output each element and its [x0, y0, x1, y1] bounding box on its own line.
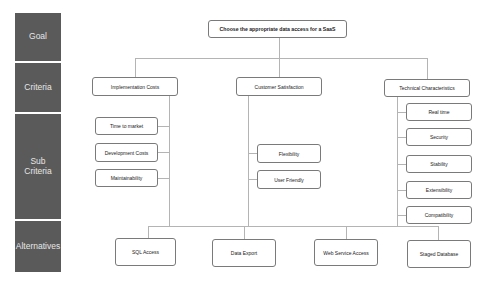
sub-development-costs[interactable]: Development Costs	[95, 143, 158, 162]
sub-label: Time to market	[110, 123, 143, 129]
level-label: Goal	[29, 32, 47, 42]
alternative-label: SQL Access	[132, 249, 159, 255]
connector	[279, 38, 280, 58]
goal-node[interactable]: Choose the appropriate data access for a…	[208, 20, 347, 38]
connector	[346, 226, 347, 239]
alternative-sql-access[interactable]: SQL Access	[115, 238, 176, 266]
connector	[397, 97, 398, 226]
sub-extensibility[interactable]: Extensibility	[406, 181, 472, 199]
level-label: Alternatives	[16, 242, 60, 252]
level-alternatives: Alternatives	[15, 221, 61, 272]
connector	[279, 58, 280, 77]
level-criteria: Criteria	[15, 63, 61, 112]
connector	[248, 179, 257, 180]
connector	[397, 164, 406, 165]
connector	[438, 226, 439, 240]
sub-label: Extensibility	[426, 187, 452, 193]
connector	[169, 96, 170, 226]
connector	[248, 96, 249, 226]
connector	[397, 137, 406, 138]
sub-label: User Friendly	[274, 177, 304, 183]
connector	[148, 226, 149, 238]
connector	[158, 178, 169, 179]
goal-label: Choose the appropriate data access for a…	[220, 26, 336, 32]
sub-user-friendly[interactable]: User Friendly	[257, 170, 321, 189]
level-sub-criteria: Sub Criteria	[15, 114, 61, 219]
criterion-implementation-costs[interactable]: Implementation Costs	[92, 77, 178, 96]
sub-time-to-market[interactable]: Time to market	[95, 117, 158, 135]
alternative-web-service-access[interactable]: Web Service Access	[314, 239, 378, 266]
sub-label: Real time	[428, 109, 449, 115]
connector	[135, 58, 136, 77]
alternative-label: Web Service Access	[323, 250, 368, 256]
connector	[244, 226, 245, 239]
connector	[158, 152, 169, 153]
alternative-staged-database[interactable]: Staged Database	[407, 240, 471, 268]
sub-stability[interactable]: Stability	[406, 155, 472, 173]
connector	[397, 190, 406, 191]
criterion-label: Technical Characteristics	[399, 85, 454, 91]
alternative-label: Staged Database	[420, 251, 459, 257]
connector	[158, 126, 169, 127]
criterion-customer-satisfaction[interactable]: Customer Satisfaction	[236, 77, 322, 96]
connector	[135, 58, 428, 59]
sub-flexibility[interactable]: Flexibility	[257, 144, 321, 163]
alternative-data-export[interactable]: Data Export	[212, 239, 276, 267]
sub-label: Compatibility	[425, 212, 454, 218]
sub-label: Security	[430, 134, 448, 140]
connector	[397, 112, 406, 113]
connector	[248, 153, 257, 154]
sub-label: Development Costs	[105, 150, 149, 156]
connector	[397, 215, 406, 216]
alternative-label: Data Export	[231, 250, 257, 256]
sub-maintainability[interactable]: Maintainability	[95, 169, 158, 187]
criterion-label: Implementation Costs	[111, 84, 159, 90]
level-label: Sub Criteria	[23, 157, 53, 177]
sub-security[interactable]: Security	[406, 128, 472, 146]
criterion-label: Customer Satisfaction	[255, 84, 304, 90]
connector	[148, 226, 439, 227]
connector	[427, 58, 428, 79]
level-label: Criteria	[24, 83, 51, 93]
level-goal: Goal	[15, 13, 61, 61]
sub-label: Maintainability	[111, 175, 143, 181]
sub-label: Flexibility	[279, 151, 300, 157]
sub-label: Stability	[430, 161, 448, 167]
criterion-technical-characteristics[interactable]: Technical Characteristics	[384, 79, 470, 97]
sub-compatibility[interactable]: Compatibility	[406, 206, 472, 224]
sub-real-time[interactable]: Real time	[406, 103, 472, 121]
